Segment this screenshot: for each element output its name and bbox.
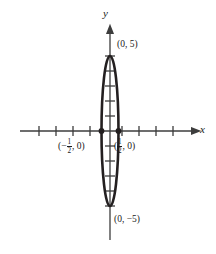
x-axis-label: x — [200, 124, 205, 135]
left-label-suffix: , 0) — [72, 141, 85, 151]
coordinate-plane-svg — [0, 0, 216, 254]
ellipse-graph-figure: y x (0, 5) (0, −5) (−12, 0) (12, 0) — [0, 0, 216, 254]
x-axis-group — [20, 126, 192, 136]
co-vertex-point-left — [99, 128, 105, 134]
co-vertex-point-right — [116, 128, 122, 134]
fraction-denominator: 2 — [117, 148, 122, 155]
right-co-vertex-label: (12, 0) — [114, 139, 135, 155]
y-axis-label: y — [103, 8, 108, 19]
fraction-numerator: 1 — [67, 139, 72, 146]
fraction-denominator: 2 — [67, 148, 72, 155]
right-label-fraction: 12 — [117, 139, 122, 155]
fraction-numerator: 1 — [117, 139, 122, 146]
left-label-prefix: (− — [58, 141, 67, 151]
left-co-vertex-label: (−12, 0) — [58, 139, 85, 155]
bottom-vertex-label: (0, −5) — [114, 215, 140, 225]
right-label-suffix: , 0) — [123, 141, 136, 151]
left-label-fraction: 12 — [67, 139, 72, 155]
top-vertex-label: (0, 5) — [117, 40, 138, 50]
